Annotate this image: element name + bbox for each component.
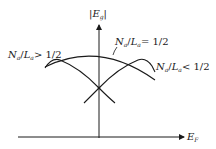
abs-bar-right: | xyxy=(104,8,107,19)
x-label-subscript: F xyxy=(194,136,198,143)
label-relation: < 1/2 xyxy=(182,61,210,72)
curve-label-equal: Na/La= 1/2 xyxy=(115,37,169,48)
curve-greater-half xyxy=(45,59,115,103)
label-n: N xyxy=(8,49,17,60)
label-leader-equal xyxy=(113,47,117,55)
label-relation: = 1/2 xyxy=(141,36,169,47)
diagram-canvas xyxy=(0,0,216,149)
x-axis-label: EF xyxy=(187,132,198,143)
band-gap-diagram: |Eg| EF Na/La= 1/2 Na/La> 1/2 Na/La< 1/2 xyxy=(0,0,216,149)
curve-label-less: Na/La< 1/2 xyxy=(156,62,210,73)
crossing-point xyxy=(98,87,101,90)
label-n: N xyxy=(156,61,165,72)
y-axis-label: |Eg| xyxy=(89,9,107,20)
curve-less-half xyxy=(84,59,155,103)
curve-label-greater: Na/La> 1/2 xyxy=(8,50,62,61)
label-n: N xyxy=(115,36,124,47)
y-label-symbol: E xyxy=(92,8,99,19)
label-relation: > 1/2 xyxy=(34,49,62,60)
